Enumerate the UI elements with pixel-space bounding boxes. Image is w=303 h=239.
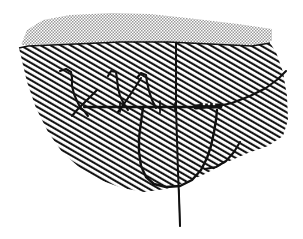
feature-thick-marked-segment — [196, 106, 220, 107]
marked-segment-dots-2 — [213, 103, 216, 106]
figure-canvas — [0, 0, 303, 239]
figure-root — [0, 0, 303, 239]
marked-segment-dots-0 — [203, 103, 206, 106]
marked-segment-dots-1 — [208, 103, 211, 106]
